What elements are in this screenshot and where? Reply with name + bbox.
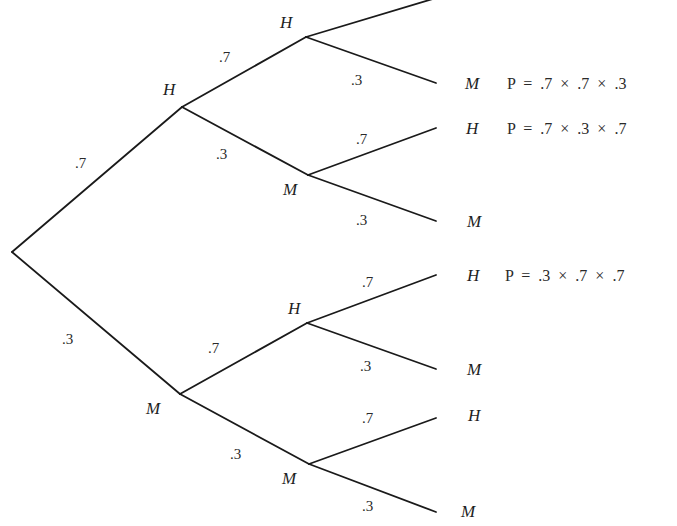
edge-h-to-hh bbox=[182, 37, 306, 107]
edge-hm-to-hmh bbox=[308, 128, 436, 175]
leaf-mmh: H bbox=[467, 406, 482, 425]
formula-mhh: P = .3 × .7 × .7 bbox=[505, 267, 624, 284]
edge-hh-to-hhm bbox=[306, 37, 436, 83]
prob-mh-mhh: .7 bbox=[362, 274, 374, 290]
prob-hm-hmh: .7 bbox=[356, 131, 368, 147]
prob-hm-hmm: .3 bbox=[356, 212, 367, 228]
prob-mm-mmm: .3 bbox=[362, 498, 373, 514]
edge-m-to-mh bbox=[180, 323, 307, 394]
node-mm: M bbox=[281, 469, 297, 488]
formula-hmh: P = .7 × .3 × .7 bbox=[507, 120, 626, 137]
prob-root-h: .7 bbox=[75, 155, 87, 171]
node-m: M bbox=[145, 399, 161, 418]
node-hm: M bbox=[282, 180, 298, 199]
node-hh: H bbox=[279, 13, 294, 32]
leaf-hhm: M bbox=[464, 74, 480, 93]
prob-hh-hhm: .3 bbox=[351, 72, 362, 88]
leaf-hmm: M bbox=[466, 212, 482, 231]
leaf-mmm: M bbox=[460, 502, 476, 521]
probability-tree-diagram: H M .7 .3 H M H M .7 .3 .7 .3 .3 .7 .3 .… bbox=[0, 0, 677, 526]
edge-root-to-h bbox=[12, 107, 182, 252]
edge-h-to-hm bbox=[182, 107, 308, 175]
prob-m-mm: .3 bbox=[230, 446, 241, 462]
prob-h-hh: .7 bbox=[219, 49, 231, 65]
edge-hh-to-hhh bbox=[306, 0, 436, 37]
prob-root-m: .3 bbox=[62, 331, 73, 347]
prob-h-hm: .3 bbox=[216, 146, 227, 162]
prob-m-mh: .7 bbox=[208, 340, 220, 356]
prob-mh-mhm: .3 bbox=[360, 358, 371, 374]
leaf-mhh: H bbox=[466, 266, 481, 285]
edge-root-to-m bbox=[12, 252, 180, 394]
edge-m-to-mm bbox=[180, 394, 309, 464]
edge-mh-to-mhm bbox=[307, 323, 436, 369]
leaf-mhm: M bbox=[466, 360, 482, 379]
node-mh: H bbox=[287, 299, 302, 318]
edge-hm-to-hmm bbox=[308, 175, 436, 221]
leaf-hmh: H bbox=[465, 119, 480, 138]
node-h: H bbox=[162, 80, 177, 99]
prob-mm-mmh: .7 bbox=[362, 410, 374, 426]
formula-hhm: P = .7 × .7 × .3 bbox=[507, 75, 626, 92]
